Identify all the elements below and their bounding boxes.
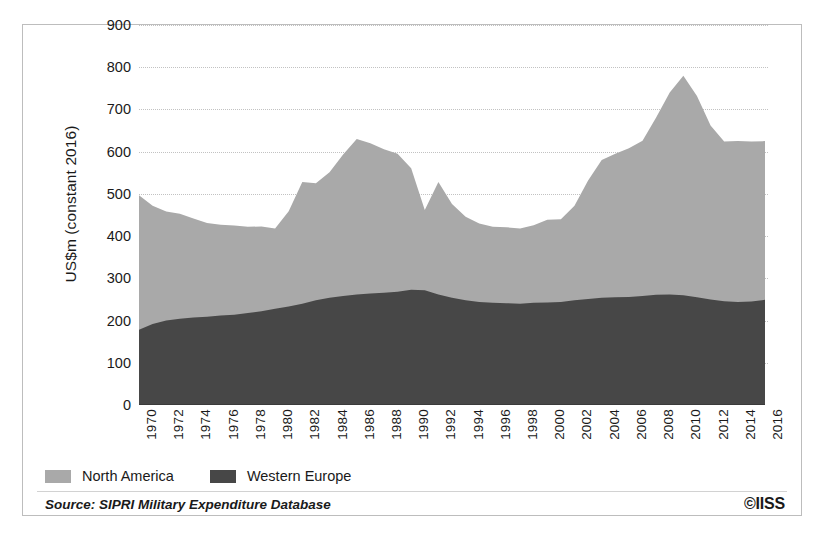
x-axis-tick-label: 1970	[144, 409, 159, 440]
x-axis-tick-label: 1974	[198, 409, 213, 440]
y-axis-tick-label: 800	[107, 59, 131, 75]
x-axis-tick-label: 2012	[716, 409, 731, 440]
plot-area	[139, 25, 765, 405]
legend-item: Western Europe	[210, 468, 352, 484]
legend-label: Western Europe	[247, 468, 352, 484]
y-axis-tick-label: 900	[107, 17, 131, 33]
legend-swatch-icon	[210, 470, 236, 483]
footer-divider	[37, 491, 787, 492]
x-axis-tick-label: 1996	[498, 409, 513, 440]
x-axis-tick-label: 2004	[607, 409, 622, 440]
y-axis-tick-label: 300	[107, 270, 131, 286]
x-axis-tick-label: 1980	[280, 409, 295, 440]
chart-figure: US$m (constant 2016) 0100200300400500600…	[22, 24, 802, 516]
x-axis-tick-label: 1998	[525, 409, 540, 440]
x-axis-tick-label: 2016	[770, 409, 785, 440]
legend-swatch-icon	[45, 470, 71, 483]
x-axis-tick-label: 1990	[416, 409, 431, 440]
x-axis-tick-label: 1982	[307, 409, 322, 440]
y-axis-tick-label: 500	[107, 186, 131, 202]
x-axis-tick-label: 2010	[688, 409, 703, 440]
copyright-label: ©IISS	[744, 495, 785, 513]
x-axis-tick-label: 2008	[661, 409, 676, 440]
x-axis-tick-labels: 1970197219741976197819801982198419861988…	[139, 409, 765, 471]
x-axis-tick-label: 2014	[743, 409, 758, 440]
x-axis-tick-label: 1988	[389, 409, 404, 440]
chart-legend: North AmericaWestern Europe	[45, 465, 387, 487]
legend-label: North America	[82, 468, 174, 484]
source-note: Source: SIPRI Military Expenditure Datab…	[45, 497, 331, 512]
y-axis-tick-label: 400	[107, 228, 131, 244]
x-axis-tick-label: 1972	[171, 409, 186, 440]
x-axis-tick-label: 1976	[226, 409, 241, 440]
x-axis-tick-label: 2000	[552, 409, 567, 440]
x-axis-tick-label: 2002	[579, 409, 594, 440]
x-axis-tick-label: 1978	[253, 409, 268, 440]
y-axis-tick-label: 0	[123, 397, 131, 413]
y-axis-tick-label: 600	[107, 144, 131, 160]
plot-region: US$m (constant 2016) 0100200300400500600…	[23, 25, 803, 405]
y-axis-tick-label: 100	[107, 355, 131, 371]
y-axis-tick-labels: 0100200300400500600700800900	[75, 25, 131, 405]
x-axis-tick-label: 1984	[335, 409, 350, 440]
x-axis-tick-label: 1994	[471, 409, 486, 440]
x-axis-tick-label: 2006	[634, 409, 649, 440]
x-axis-line	[139, 404, 765, 405]
x-axis-tick-label: 1992	[443, 409, 458, 440]
stacked-area-chart	[139, 25, 765, 405]
x-axis-tick-label: 1986	[362, 409, 377, 440]
y-axis-tick-label: 700	[107, 101, 131, 117]
legend-item: North America	[45, 468, 174, 484]
y-axis-tick-label: 200	[107, 313, 131, 329]
